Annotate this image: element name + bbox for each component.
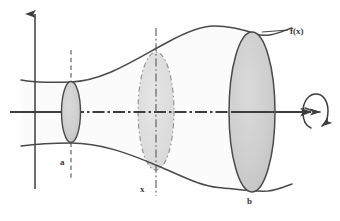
label-upper-bound-b: b xyxy=(247,197,252,206)
solid-of-revolution-figure: a x b f(x) xyxy=(0,0,340,221)
label-function-fx: f(x) xyxy=(290,27,304,36)
cross-section-disk-at-b xyxy=(229,32,275,192)
cross-section-disk-at-a xyxy=(62,82,81,143)
figure-canvas xyxy=(0,0,340,221)
rotation-loop-arrow xyxy=(303,94,328,128)
solid-body-fill xyxy=(22,26,252,192)
label-lower-bound-a: a xyxy=(60,158,65,167)
label-variable-x: x xyxy=(140,185,145,194)
disk-at-a-shape xyxy=(62,82,81,143)
solid-surface xyxy=(22,26,252,192)
